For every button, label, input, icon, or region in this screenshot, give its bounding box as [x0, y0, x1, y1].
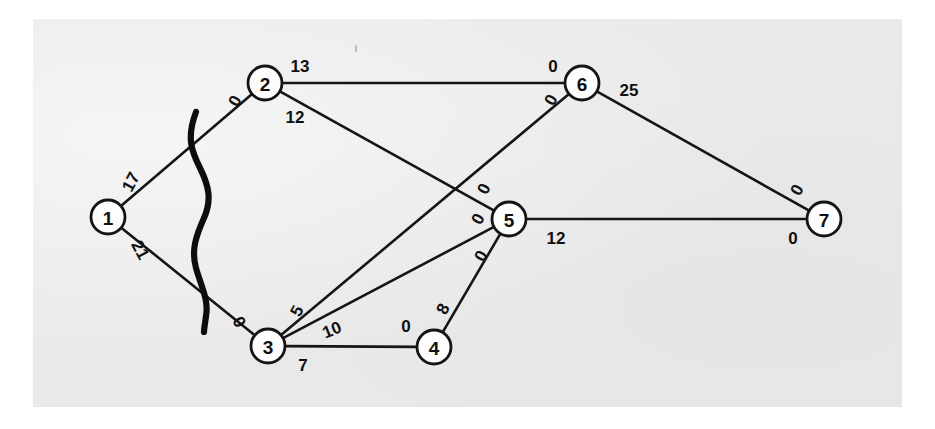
node-label-3: 3: [263, 337, 274, 358]
graph-node-3[interactable]: 3: [251, 329, 285, 363]
cut-line-layer: [191, 112, 209, 332]
cut-curve: [191, 112, 209, 332]
edge-label-edge-1-3-source: 21: [127, 237, 153, 263]
annotations-layer: [355, 45, 357, 52]
edge-label-edge-2-6-target: 0: [548, 57, 557, 76]
edge-label-edge-3-5-target: 0: [467, 210, 488, 227]
graph-node-5[interactable]: 5: [492, 202, 526, 236]
edge-label-edge-2-5-target: 0: [473, 181, 494, 198]
figure-root: 1234567 170210130120501007080120250: [0, 0, 935, 429]
graph-node-4[interactable]: 4: [417, 330, 451, 364]
edges-layer: [121, 83, 809, 347]
edge-label-edge-3-5-source: 10: [320, 318, 345, 343]
edge-label-edge-5-7-target: 0: [788, 229, 797, 248]
graph-node-7[interactable]: 7: [807, 202, 841, 236]
edge-2-5: [280, 91, 494, 210]
edge-6-7: [597, 91, 809, 210]
node-label-4: 4: [429, 338, 440, 359]
edge-label-edge-4-5-source: 8: [432, 300, 453, 317]
node-label-6: 6: [577, 74, 588, 95]
node-label-2: 2: [260, 74, 271, 95]
node-label-1: 1: [103, 208, 114, 229]
speck-top: [355, 45, 357, 52]
edge-label-edge-3-6-target: 0: [540, 91, 561, 108]
edge-1-2: [121, 94, 252, 206]
graph-node-2[interactable]: 2: [248, 66, 282, 100]
edge-labels-layer: 170210130120501007080120250: [118, 57, 807, 375]
edge-3-4: [285, 346, 417, 347]
node-label-7: 7: [819, 210, 830, 231]
edge-label-edge-2-5-source: 12: [286, 108, 305, 127]
edge-label-edge-3-4-source: 7: [298, 356, 307, 375]
node-label-5: 5: [504, 210, 515, 231]
edge-label-edge-2-6-source: 13: [291, 57, 310, 76]
edge-label-edge-6-7-target: 0: [786, 181, 807, 198]
edge-label-edge-1-2-target: 0: [224, 92, 245, 109]
edge-label-edge-3-6-source: 5: [286, 302, 307, 319]
graph-node-1[interactable]: 1: [91, 200, 125, 234]
graph-node-6[interactable]: 6: [565, 66, 599, 100]
edge-label-edge-5-7-source: 12: [547, 229, 566, 248]
network-graph-canvas: 1234567 170210130120501007080120250: [0, 0, 935, 429]
edge-label-edge-4-5-target: 0: [470, 247, 491, 264]
edge-label-edge-6-7-source: 25: [620, 81, 639, 100]
edge-label-edge-3-4-target: 0: [401, 317, 410, 336]
